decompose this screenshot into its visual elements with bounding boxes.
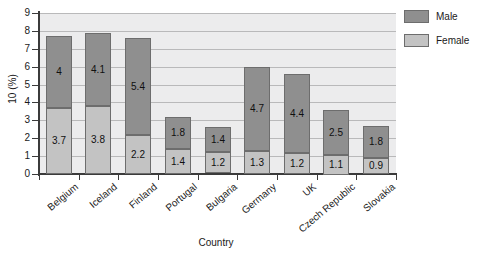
bar-value-label: 0.9 [369, 161, 383, 171]
bar-group: 43.7 [46, 36, 72, 174]
bar-segment-male: 4.4 [284, 74, 310, 153]
bar-group: 5.42.2 [125, 38, 151, 174]
bar-value-label: 4.7 [250, 104, 264, 114]
x-category-label: Belgium [4, 181, 80, 247]
gridline [39, 31, 396, 32]
bar-value-label: 4 [56, 67, 62, 77]
x-category-label: Iceland [43, 181, 119, 247]
y-tick-label: 1 [0, 151, 30, 161]
y-tick-mark [32, 31, 39, 32]
bar-value-label: 2.2 [131, 150, 145, 160]
y-tick-mark [32, 49, 39, 50]
legend-label: Male [436, 12, 458, 22]
y-tick-mark [32, 102, 39, 103]
y-axis-line [38, 11, 40, 176]
bar-segment-male: 1.8 [363, 126, 389, 158]
bar-chart: 0123456789 43.74.13.85.42.21.81.41.41.24… [0, 0, 480, 258]
bar-group: 4.13.8 [85, 33, 111, 174]
bar-value-label: 3.7 [52, 136, 66, 146]
gridline [39, 13, 396, 14]
x-tick-mark [356, 175, 357, 180]
y-tick-label: 9 [0, 8, 30, 18]
legend-item: Male [404, 9, 478, 24]
bar-segment-female: 0.9 [363, 158, 389, 174]
bar-value-label: 1.3 [250, 158, 264, 168]
bar-segment-male: 1.4 [205, 127, 231, 152]
legend-item: Female [404, 33, 478, 48]
bar-value-label: 1.2 [290, 159, 304, 169]
y-axis-title: 10 (%) [8, 54, 18, 124]
bar-segment-male: 5.4 [125, 38, 151, 135]
bar-value-label: 4.4 [290, 109, 304, 119]
bar-segment-male: 2.5 [323, 110, 349, 155]
y-tick-label: 7 [0, 44, 30, 54]
bar-value-label: 1.1 [329, 160, 343, 170]
legend-swatch [404, 10, 429, 23]
bar-group: 1.80.9 [363, 126, 389, 174]
y-tick-label: 2 [0, 133, 30, 143]
bar-value-label: 1.2 [211, 158, 225, 168]
bar-segment-male: 4.1 [85, 33, 111, 106]
bar-segment-male: 1.8 [165, 117, 191, 149]
y-tick-label: 0 [0, 169, 30, 179]
bar-segment-female: 1.3 [244, 151, 270, 174]
bar-value-label: 1.4 [171, 157, 185, 167]
bar-segment-female: 1.4 [165, 149, 191, 174]
bar-group: 1.81.4 [165, 117, 191, 174]
bar-segment-female: 1.2 [205, 152, 231, 173]
bar-value-label: 3.8 [91, 135, 105, 145]
bar-segment-female: 2.2 [125, 135, 151, 174]
x-tick-mark [39, 175, 40, 180]
bar-segment-female: 3.8 [85, 106, 111, 174]
bar-value-label: 4.1 [91, 65, 105, 75]
chart-legend: MaleFemale [404, 9, 478, 57]
bar-value-label: 1.8 [369, 137, 383, 147]
bar-group: 2.51.1 [323, 110, 349, 175]
x-tick-mark [118, 175, 119, 180]
legend-swatch [404, 34, 429, 47]
x-tick-mark [79, 175, 80, 180]
bar-value-label: 5.4 [131, 82, 145, 92]
y-tick-label: 8 [0, 26, 30, 36]
y-tick-mark [32, 138, 39, 139]
x-category-label: Czech Republic [281, 181, 357, 247]
y-tick-mark [32, 156, 39, 157]
bar-segment-female: 3.7 [46, 108, 72, 174]
x-tick-mark [396, 175, 397, 180]
legend-label: Female [436, 36, 469, 46]
y-tick-mark [32, 13, 39, 14]
x-tick-mark [237, 175, 238, 180]
bar-group: 4.71.3 [244, 67, 270, 174]
bar-value-label: 1.4 [211, 135, 225, 145]
bar-segment-male: 4.7 [244, 67, 270, 151]
bar-group: 1.41.2 [205, 127, 231, 173]
x-tick-mark [158, 175, 159, 180]
y-tick-mark [32, 67, 39, 68]
bar-value-label: 2.5 [329, 128, 343, 138]
y-tick-mark [32, 120, 39, 121]
x-category-label: Finland [83, 181, 159, 247]
bar-segment-female: 1.2 [284, 153, 310, 174]
x-tick-mark [277, 175, 278, 180]
y-tick-mark [32, 85, 39, 86]
x-category-label: Slovakia [321, 181, 397, 247]
bar-segment-female: 1.1 [323, 155, 349, 175]
x-tick-mark [317, 175, 318, 180]
x-tick-mark [198, 175, 199, 180]
bar-value-label: 1.8 [171, 128, 185, 138]
bar-segment-male: 4 [46, 36, 72, 108]
x-axis-title: Country [170, 238, 262, 248]
bar-group: 4.41.2 [284, 74, 310, 174]
